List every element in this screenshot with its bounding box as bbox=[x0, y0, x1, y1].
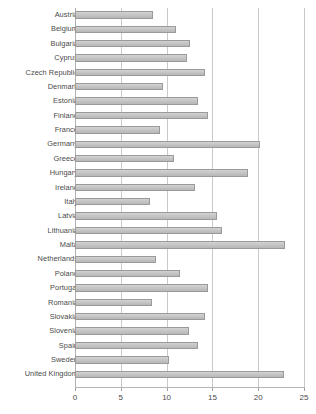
bar-track bbox=[75, 26, 304, 33]
bar-row: Denmark bbox=[0, 80, 316, 94]
bar bbox=[75, 270, 180, 277]
bar-row: Sweden bbox=[0, 353, 316, 367]
tick-label-10: 10 bbox=[162, 393, 171, 402]
bar bbox=[75, 198, 150, 205]
tick-mark-20 bbox=[258, 388, 259, 391]
bar-track bbox=[75, 284, 304, 291]
bar bbox=[75, 241, 285, 248]
bar-track bbox=[75, 83, 304, 90]
bar bbox=[75, 54, 187, 61]
bar-row: Finland bbox=[0, 109, 316, 123]
bar-row: Belgium bbox=[0, 22, 316, 36]
bar-row: Germany bbox=[0, 137, 316, 151]
bar-track bbox=[75, 40, 304, 47]
bar-row: Malta bbox=[0, 238, 316, 252]
tick-label-25: 25 bbox=[300, 393, 309, 402]
category-label: Poland bbox=[4, 267, 78, 281]
bar-row: Poland bbox=[0, 267, 316, 281]
tick-label-15: 15 bbox=[208, 393, 217, 402]
bar bbox=[75, 112, 208, 119]
bar-row: Slovenia bbox=[0, 324, 316, 338]
bar bbox=[75, 284, 208, 291]
bar bbox=[75, 40, 190, 47]
bar bbox=[75, 313, 205, 320]
bar-track bbox=[75, 184, 304, 191]
bar-track bbox=[75, 97, 304, 104]
bar-row: Czech Republic bbox=[0, 66, 316, 80]
category-label: Austria bbox=[4, 8, 78, 22]
bar bbox=[75, 126, 160, 133]
tick-mark-15 bbox=[212, 388, 213, 391]
bar-row: Greece bbox=[0, 152, 316, 166]
bar-row: Ireland bbox=[0, 181, 316, 195]
bar-row: Italy bbox=[0, 195, 316, 209]
bar-row: Latvia bbox=[0, 209, 316, 223]
bar-row: France bbox=[0, 123, 316, 137]
category-label: Finland bbox=[4, 109, 78, 123]
bar-row: Cyprus bbox=[0, 51, 316, 65]
bar bbox=[75, 184, 195, 191]
category-label: Greece bbox=[4, 152, 78, 166]
bar-track bbox=[75, 141, 304, 148]
bar-track bbox=[75, 54, 304, 61]
bar-row: Netherlands bbox=[0, 252, 316, 266]
category-label: Cyprus bbox=[4, 51, 78, 65]
tick-label-0: 0 bbox=[73, 393, 77, 402]
bar-track bbox=[75, 126, 304, 133]
bar-track bbox=[75, 342, 304, 349]
bar bbox=[75, 155, 174, 162]
category-label: Belgium bbox=[4, 22, 78, 36]
bar-row: Slovakia bbox=[0, 310, 316, 324]
bar bbox=[75, 83, 163, 90]
tick-mark-0 bbox=[75, 388, 76, 391]
bar bbox=[75, 141, 260, 148]
bar bbox=[75, 227, 222, 234]
bar bbox=[75, 256, 156, 263]
category-label: Estonia bbox=[4, 94, 78, 108]
bar bbox=[75, 299, 152, 306]
bar-track bbox=[75, 241, 304, 248]
category-label: Lithuania bbox=[4, 224, 78, 238]
bar-row: Lithuania bbox=[0, 224, 316, 238]
bar-track bbox=[75, 270, 304, 277]
bar bbox=[75, 97, 198, 104]
category-label: France bbox=[4, 123, 78, 137]
bar-track bbox=[75, 227, 304, 234]
category-label: Latvia bbox=[4, 209, 78, 223]
category-label: Hungary bbox=[4, 166, 78, 180]
bar-chart: AustriaBelgiumBulgariaCyprusCzech Republ… bbox=[0, 0, 316, 414]
bar-track bbox=[75, 155, 304, 162]
bar-track bbox=[75, 313, 304, 320]
category-label: Germany bbox=[4, 137, 78, 151]
bar bbox=[75, 371, 284, 378]
category-label: Czech Republic bbox=[4, 66, 78, 80]
category-label: United Kingdom bbox=[4, 367, 78, 381]
category-label: Slovenia bbox=[4, 324, 78, 338]
category-label: Slovakia bbox=[4, 310, 78, 324]
bar-track bbox=[75, 256, 304, 263]
bar bbox=[75, 342, 198, 349]
bar bbox=[75, 26, 176, 33]
bar-rows: AustriaBelgiumBulgariaCyprusCzech Republ… bbox=[0, 8, 316, 387]
tick-mark-10 bbox=[167, 388, 168, 391]
category-label: Portugal bbox=[4, 281, 78, 295]
tick-mark-5 bbox=[121, 388, 122, 391]
bar bbox=[75, 11, 153, 18]
category-label: Spain bbox=[4, 339, 78, 353]
category-label: Denmark bbox=[4, 80, 78, 94]
category-label: Bulgaria bbox=[4, 37, 78, 51]
bar-track bbox=[75, 198, 304, 205]
bar bbox=[75, 212, 217, 219]
bar-track bbox=[75, 356, 304, 363]
category-label: Romania bbox=[4, 296, 78, 310]
category-label: Sweden bbox=[4, 353, 78, 367]
bar-track bbox=[75, 69, 304, 76]
bar bbox=[75, 69, 205, 76]
bar bbox=[75, 327, 189, 334]
tick-mark-25 bbox=[304, 388, 305, 391]
bar bbox=[75, 356, 169, 363]
bar-row: Austria bbox=[0, 8, 316, 22]
bar-track bbox=[75, 112, 304, 119]
bar-track bbox=[75, 11, 304, 18]
x-axis-ticks: 0510152025 bbox=[0, 388, 316, 410]
